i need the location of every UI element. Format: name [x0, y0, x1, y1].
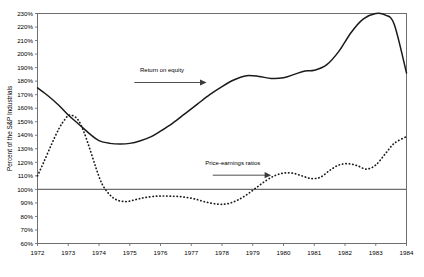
y-tick-label: 210% [17, 37, 33, 44]
x-tick-label: 1981 [307, 249, 321, 256]
annotation-label: Return on equity [140, 67, 184, 73]
x-tick-label: 1976 [154, 249, 168, 256]
y-tick-label: 180% [17, 77, 33, 84]
chart-background [0, 0, 424, 277]
y-tick-label: 80% [21, 213, 34, 220]
x-tick-label: 1983 [369, 249, 383, 256]
y-tick-label: 200% [17, 50, 33, 57]
y-tick-label: 140% [17, 131, 33, 138]
y-tick-label: 150% [17, 118, 33, 125]
x-tick-label: 1978 [215, 249, 229, 256]
x-tick-label: 1980 [277, 249, 291, 256]
y-tick-label: 60% [21, 240, 34, 247]
x-tick-label: 1979 [246, 249, 260, 256]
x-tick-label: 1973 [61, 249, 75, 256]
chart-container: 230%220%210%200%190%180%170%160%150%140%… [0, 0, 424, 277]
x-tick-label: 1972 [31, 249, 45, 256]
x-tick-label: 1977 [184, 249, 198, 256]
y-tick-label: 220% [17, 23, 33, 30]
y-tick-label: 230% [17, 10, 33, 17]
y-tick-label: 110% [18, 172, 34, 179]
x-tick-label: 1974 [92, 249, 106, 256]
y-tick-label: 70% [21, 226, 34, 233]
annotation-label: Price-earnings ratios [205, 160, 260, 166]
y-tick-label: 130% [17, 145, 33, 152]
y-axis-title: Percent of the S&P Industrials [6, 86, 13, 171]
y-tick-label: 90% [21, 199, 34, 206]
x-tick-label: 1984 [400, 249, 414, 256]
percent-of-sp-industrials-chart: 230%220%210%200%190%180%170%160%150%140%… [0, 0, 424, 277]
y-tick-label: 120% [17, 159, 33, 166]
x-tick-label: 1982 [338, 249, 352, 256]
x-tick-label: 1975 [123, 249, 137, 256]
y-tick-label: 190% [17, 64, 33, 71]
y-tick-label: 100% [17, 186, 33, 193]
y-tick-label: 170% [17, 91, 33, 98]
y-tick-label: 160% [17, 104, 33, 111]
